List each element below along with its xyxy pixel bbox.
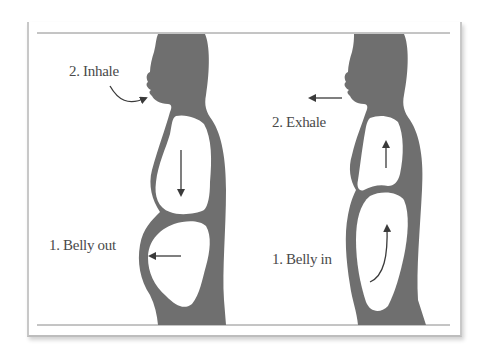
inhale-label: 2. Inhale bbox=[69, 63, 119, 80]
inhale-silhouette bbox=[139, 34, 226, 325]
breathing-diagram bbox=[0, 0, 486, 354]
belly-in-label: 1. Belly in bbox=[272, 251, 332, 268]
exhale-silhouette bbox=[345, 34, 426, 325]
inhale-arrow-icon bbox=[110, 86, 146, 102]
belly-out-label: 1. Belly out bbox=[49, 237, 116, 254]
exhale-label: 2. Exhale bbox=[272, 114, 326, 131]
